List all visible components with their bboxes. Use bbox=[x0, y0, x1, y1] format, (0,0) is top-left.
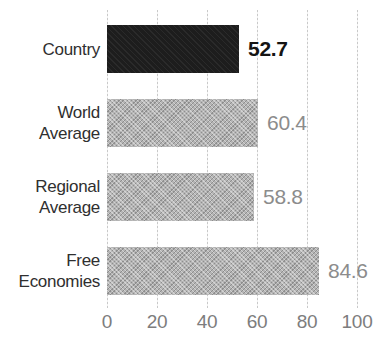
value-label-world-average: 60.4 bbox=[267, 99, 307, 147]
value-label-regional-average: 58.8 bbox=[263, 173, 303, 221]
x-tick-label-0: 0 bbox=[102, 311, 112, 333]
bar-country bbox=[107, 25, 239, 73]
x-tick-label-60: 60 bbox=[247, 311, 268, 333]
x-tick-label-100: 100 bbox=[342, 311, 373, 333]
category-label-free-economies: Free Economies bbox=[0, 247, 100, 295]
x-tick-label-40: 40 bbox=[197, 311, 218, 333]
value-label-country: 52.7 bbox=[248, 25, 288, 73]
bar-regional-average bbox=[107, 173, 254, 221]
category-label-regional-average: Regional Average bbox=[0, 173, 100, 221]
bar-free-economies bbox=[107, 247, 319, 295]
category-label-country: Country bbox=[0, 25, 100, 73]
score-comparison-bar-chart: Country 52.7 World Average 60.4 Regional… bbox=[0, 0, 390, 353]
value-label-free-economies: 84.6 bbox=[328, 247, 368, 295]
bar-world-average bbox=[107, 99, 258, 147]
category-label-world-average: World Average bbox=[0, 99, 100, 147]
x-tick-label-20: 20 bbox=[147, 311, 168, 333]
x-tick-label-80: 80 bbox=[297, 311, 318, 333]
